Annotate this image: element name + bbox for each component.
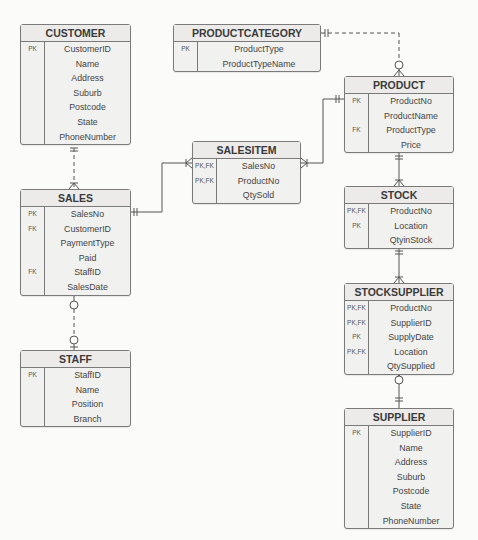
key-cell [174, 57, 197, 72]
key-cell: PK [21, 207, 44, 222]
key-cell [21, 251, 44, 266]
attribute: State [369, 499, 453, 514]
attribute: PhoneNumber [369, 514, 453, 529]
attribute: Location [369, 219, 453, 234]
attribute: Postcode [45, 100, 130, 115]
attribute: ProductNo [369, 94, 453, 109]
attribute: ProductName [369, 109, 453, 124]
entity-productcategory[interactable]: PRODUCTCATEGORY PK ProductType ProductTy… [173, 24, 321, 72]
key-column: PK,FK PK,FK PK PK,FK [345, 301, 369, 374]
rel-supplier-stocksupplier [394, 370, 404, 408]
key-cell [21, 100, 44, 115]
attribute: SupplierID [369, 316, 453, 331]
attribute-column: ProductNo Location QtyinStock [369, 204, 453, 248]
attribute: Price [369, 138, 453, 153]
key-cell [345, 138, 368, 153]
key-cell: FK [21, 222, 44, 237]
attribute: SalesNo [45, 207, 130, 222]
entity-supplier[interactable]: SUPPLIER PK SupplierID Name Address Subu… [344, 408, 454, 529]
entity-product[interactable]: PRODUCT PK FK ProductNo ProductName Prod… [344, 76, 454, 153]
entity-salesitem[interactable]: SALESITEM PK,FK PK,FK SalesNo ProductNo … [192, 141, 301, 204]
entity-title: SUPPLIER [345, 409, 453, 426]
key-cell [21, 412, 44, 427]
attribute: SupplyDate [369, 330, 453, 345]
attribute: Name [45, 57, 130, 72]
key-column: PK FK FK [21, 207, 45, 295]
key-cell: PK,FK [345, 345, 368, 360]
entity-stock[interactable]: STOCK PK,FK PK ProductNo Location QtyinS… [344, 186, 454, 249]
entity-stocksupplier[interactable]: STOCKSUPPLIER PK,FK PK,FK PK PK,FK Produ… [344, 283, 454, 375]
rel-customer-sales [69, 141, 79, 189]
key-cell: FK [21, 265, 44, 280]
entity-title: SALESITEM [193, 142, 300, 159]
key-cell [345, 514, 368, 529]
attribute: ProductType [369, 123, 453, 138]
attribute-column: ProductNo ProductName ProductType Price [369, 94, 453, 152]
key-cell [345, 484, 368, 499]
attribute: Suburb [45, 86, 130, 101]
attribute: Paid [45, 251, 130, 266]
attribute: ProductNo [369, 204, 453, 219]
key-column: PK [345, 426, 369, 528]
key-column: PK [21, 368, 45, 426]
key-cell [345, 470, 368, 485]
entity-title: PRODUCTCATEGORY [174, 25, 320, 42]
attribute: Position [45, 397, 130, 412]
key-cell [345, 233, 368, 248]
key-cell: PK,FK [193, 174, 216, 189]
key-cell [21, 57, 44, 72]
key-cell [21, 397, 44, 412]
attribute-column: ProductType ProductTypeName [198, 42, 320, 71]
key-cell [21, 236, 44, 251]
key-cell [345, 359, 368, 374]
attribute: StaffID [45, 265, 130, 280]
key-cell [345, 109, 368, 124]
key-cell [21, 280, 44, 295]
attribute: ProductNo [217, 174, 300, 189]
key-cell: PK,FK [345, 204, 368, 219]
attribute-column: CustomerID Name Address Suburb Postcode … [45, 42, 130, 144]
entity-title: CUSTOMER [21, 25, 130, 42]
entity-customer[interactable]: CUSTOMER PK CustomerID Name Address Subu… [20, 24, 131, 145]
attribute-column: ProductNo SupplierID SupplyDate Location… [369, 301, 453, 374]
entity-title: PRODUCT [345, 77, 453, 94]
rel-product-stock [394, 150, 404, 186]
key-cell: PK,FK [345, 316, 368, 331]
attribute: SalesNo [217, 159, 300, 174]
attribute: SupplierID [369, 426, 453, 441]
attribute: Postcode [369, 484, 453, 499]
attribute-column: SalesNo CustomerID PaymentType Paid Staf… [45, 207, 130, 295]
attribute: State [45, 115, 130, 130]
attribute: QtyinStock [369, 233, 453, 248]
attribute: StaffID [45, 368, 130, 383]
attribute: QtySupplied [369, 359, 453, 374]
key-cell: PK,FK [345, 301, 368, 316]
attribute-column: SalesNo ProductNo QtySold [217, 159, 300, 203]
key-cell: PK,FK [193, 159, 216, 174]
key-cell [345, 441, 368, 456]
attribute-column: SupplierID Name Address Suburb Postcode … [369, 426, 453, 528]
entity-sales[interactable]: SALES PK FK FK SalesNo CustomerID Paymen… [20, 189, 131, 296]
key-cell: PK [345, 426, 368, 441]
rel-staff-sales [69, 290, 79, 350]
rel-product-salesitem [301, 95, 344, 168]
key-cell: PK [345, 330, 368, 345]
key-column: PK,FK PK [345, 204, 369, 248]
attribute: Branch [45, 412, 130, 427]
entity-title: SALES [21, 190, 130, 207]
key-cell: PK [21, 42, 44, 57]
attribute: Address [369, 455, 453, 470]
attribute: Name [369, 441, 453, 456]
attribute: ProductType [198, 42, 320, 57]
key-cell [21, 71, 44, 86]
key-cell [21, 86, 44, 101]
attribute: PhoneNumber [45, 130, 130, 145]
key-cell [21, 115, 44, 130]
entity-staff[interactable]: STAFF PK StaffID Name Position Branch [20, 350, 131, 427]
key-cell: PK [21, 368, 44, 383]
key-cell [21, 383, 44, 398]
key-cell: FK [345, 123, 368, 138]
attribute: ProductTypeName [198, 57, 320, 72]
key-column: PK [21, 42, 45, 144]
attribute: QtySold [217, 188, 300, 203]
